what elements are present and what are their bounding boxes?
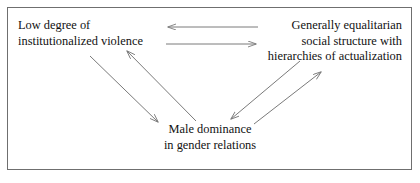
node-equalitarian-social-structure: Generally equalitarian social structure … — [268, 18, 402, 65]
node-structure-line-1: Generally equalitarian — [268, 18, 402, 34]
arrow-violence-to-dominance — [90, 56, 158, 122]
node-dominance-line-2: in gender relations — [0, 138, 420, 154]
node-dominance-line-1: Male dominance — [0, 122, 420, 138]
node-violence-line-2: institutionalized violence — [18, 34, 143, 50]
diagram-figure: Low degree of institutionalized violence… — [0, 0, 420, 183]
node-structure-line-3: hierarchies of actualization — [268, 49, 402, 65]
arrow-dominance-to-structure — [254, 72, 321, 124]
arrow-dominance-to-violence — [127, 51, 196, 121]
node-low-institutionalized-violence: Low degree of institutionalized violence — [18, 18, 143, 49]
node-structure-line-2: social structure with — [268, 34, 402, 50]
arrow-structure-to-dominance — [231, 61, 300, 119]
node-male-dominance-gender-relations: Male dominance in gender relations — [0, 122, 420, 153]
node-violence-line-1: Low degree of — [18, 18, 143, 34]
